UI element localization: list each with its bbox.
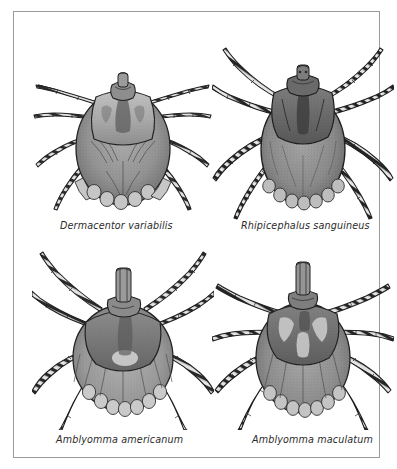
capitulum — [111, 73, 136, 101]
species-label-rhipicephalus-sanguineus: Rhipicephalus sanguineus — [241, 220, 370, 231]
figure-rhipicephalus-sanguineus — [212, 45, 394, 220]
figure-amblyomma-maculatum — [212, 250, 394, 430]
figure-amblyomma-americanum — [32, 250, 214, 430]
scutum — [85, 311, 161, 371]
capitulum — [287, 65, 319, 96]
illustration-plate: Dermacentor variabilis — [0, 0, 397, 469]
capitulum — [288, 262, 317, 310]
plate-frame: Dermacentor variabilis — [13, 11, 380, 458]
capitulum — [107, 268, 140, 317]
tick-illustration-dermacentor-variabilis — [32, 45, 214, 220]
species-label-amblyomma-americanum: Amblyomma americanum — [56, 434, 183, 445]
tick-illustration-amblyomma-maculatum — [212, 250, 394, 430]
tick-illustration-amblyomma-americanum — [32, 250, 214, 430]
figure-dermacentor-variabilis — [32, 45, 214, 220]
tick-illustration-rhipicephalus-sanguineus — [212, 45, 394, 220]
species-label-amblyomma-maculatum: Amblyomma maculatum — [252, 434, 373, 445]
species-label-dermacentor-variabilis: Dermacentor variabilis — [60, 220, 173, 231]
scutum — [267, 305, 339, 365]
